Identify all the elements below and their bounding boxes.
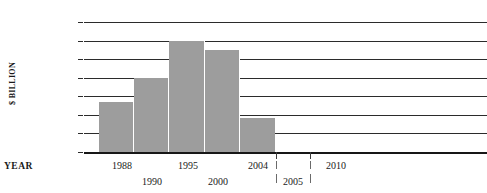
y-tick-dash <box>78 41 83 42</box>
bar-chart-figure: — —— —— ——— $ BILLION 175150125100755025… <box>0 0 487 193</box>
x-tick-dash <box>310 161 311 169</box>
plot-area <box>84 22 487 152</box>
bar <box>169 41 204 152</box>
x-tick-label: 1995 <box>178 161 198 171</box>
y-tick-dash <box>78 22 83 23</box>
x-tick-label: 2010 <box>326 161 346 171</box>
x-tick-mark <box>310 152 311 159</box>
x-tick-label: 2000 <box>208 177 228 187</box>
y-tick-dash <box>78 152 83 153</box>
y-tick-dash <box>78 78 83 79</box>
x-tick-dash <box>276 161 277 169</box>
bar <box>205 50 240 152</box>
y-tick-dash <box>78 96 83 97</box>
x-tick-mark <box>276 152 277 159</box>
gridline <box>84 22 487 23</box>
y-tick-dash <box>78 59 83 60</box>
x-axis-title: YEAR <box>4 161 33 171</box>
gridline <box>84 41 487 42</box>
x-tick-label: 2004 <box>248 161 268 171</box>
gridline <box>84 152 487 154</box>
y-tick-dash <box>78 133 83 134</box>
x-tick-label: 1988 <box>112 161 132 171</box>
gridline <box>84 59 487 60</box>
x-tick-dash <box>276 174 277 183</box>
x-tick-dash <box>310 174 311 183</box>
bar <box>99 102 134 153</box>
x-tick-label: 2005 <box>283 177 303 187</box>
y-axis-title: $ BILLION <box>8 49 17 119</box>
bar <box>134 78 169 152</box>
cropped-title-sliver: — —— —— ——— <box>118 0 206 4</box>
bar <box>240 118 275 152</box>
y-tick-dash <box>78 115 83 116</box>
x-tick-label: 1990 <box>142 177 162 187</box>
